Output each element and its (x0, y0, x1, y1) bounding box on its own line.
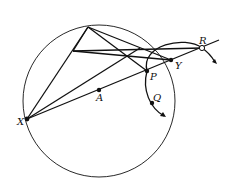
geometry-figure (0, 0, 234, 180)
label-q: Q (153, 93, 161, 103)
label-p: P (150, 72, 157, 82)
label-x: X (17, 117, 24, 127)
label-a: A (96, 93, 103, 103)
point-p (145, 69, 149, 73)
point-y (169, 58, 173, 62)
point-x (25, 117, 30, 122)
point-r (199, 45, 204, 50)
label-y: Y (175, 61, 182, 71)
construction-lines (27, 27, 219, 119)
arrow-head-r (212, 59, 217, 64)
label-r: R (199, 36, 207, 46)
diagram-canvas: X A P Q Y R (0, 0, 234, 180)
